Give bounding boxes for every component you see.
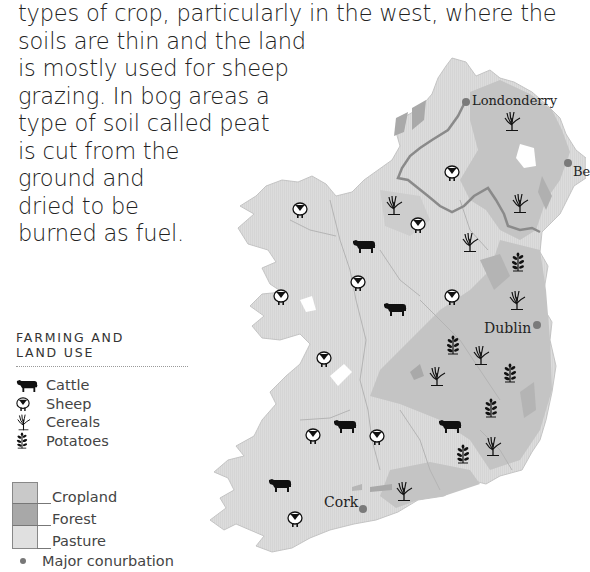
pasture-label: Pasture — [52, 533, 106, 549]
cereals-icon — [16, 413, 42, 431]
cattle-icon — [16, 376, 42, 394]
legend-item-conurbation: Major conurbation — [20, 553, 174, 569]
legend-item-sheep: Sheep — [16, 395, 191, 414]
city-dot-icon — [533, 321, 541, 329]
city-label-dublin: Dublin — [484, 320, 531, 336]
key-tick — [37, 503, 51, 504]
key-tick — [37, 548, 51, 549]
city-dot-icon — [20, 558, 26, 564]
city-dot-icon — [564, 159, 572, 167]
sheep-icon — [16, 395, 42, 413]
legend-item-cereals: Cereals — [16, 413, 191, 432]
legend-item-potatoes: Potatoes — [16, 432, 191, 451]
legend-title-line: FARMING AND — [16, 330, 191, 345]
legend-title-line: LAND USE — [16, 345, 191, 360]
city-label-belfast: Be — [573, 164, 590, 179]
legend-label: Cattle — [46, 377, 89, 393]
legend-label: Potatoes — [46, 433, 109, 449]
city-dot-icon — [462, 98, 470, 106]
potatoes-icon — [16, 432, 42, 450]
key-tick — [37, 525, 51, 526]
legend: FARMING AND LAND USE Cattle Sheep Cereal… — [16, 330, 191, 450]
cropland-swatch — [12, 482, 38, 503]
city-label-londonderry: Londonderry — [472, 93, 557, 108]
city-label-cork: Cork — [324, 494, 358, 510]
forest-label: Forest — [52, 511, 97, 527]
legend-label: Sheep — [46, 396, 91, 412]
legend-label: Major conurbation — [42, 553, 174, 569]
forest-swatch — [12, 503, 38, 525]
city-dot-icon — [359, 505, 367, 513]
pasture-swatch — [12, 525, 38, 549]
legend-item-cattle: Cattle — [16, 376, 191, 395]
legend-title: FARMING AND LAND USE — [16, 330, 191, 360]
legend-label: Cereals — [46, 414, 100, 430]
legend-divider — [16, 366, 188, 367]
cropland-label: Cropland — [52, 489, 117, 505]
